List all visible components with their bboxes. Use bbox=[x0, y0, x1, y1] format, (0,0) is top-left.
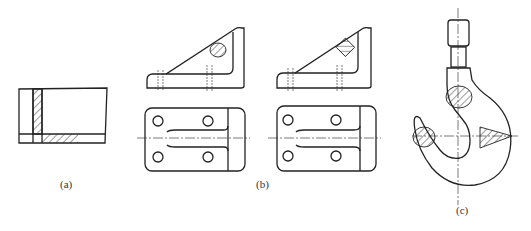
drawing-canvas bbox=[0, 0, 531, 231]
panel-b-label: (b) bbox=[256, 178, 269, 190]
panel-b-left-front-view bbox=[147, 28, 244, 91]
panel-a-label: (a) bbox=[60, 178, 72, 190]
panel-b-right-top-view bbox=[268, 106, 381, 171]
panel-b-left-top-view bbox=[137, 108, 250, 171]
panel-a-drawing bbox=[19, 88, 107, 143]
panel-b-right-front-view bbox=[277, 28, 371, 92]
panel-c-label: (c) bbox=[456, 204, 468, 216]
panel-c-hook bbox=[412, 8, 520, 205]
